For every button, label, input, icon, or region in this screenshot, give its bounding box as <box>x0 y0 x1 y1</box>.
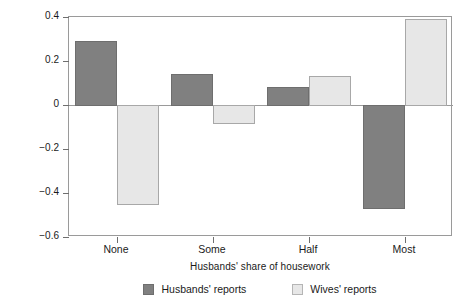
bar-most-wives <box>405 19 447 106</box>
x-axis-title: Husbands' share of housework <box>68 261 452 272</box>
y-axis-title: Marital happiness (standardized scores) <box>0 0 30 306</box>
x-tick-label: Half <box>263 243 353 255</box>
bar-none-husbands <box>75 41 117 106</box>
y-tick-label: 0 <box>13 99 59 109</box>
legend-swatch-icon-wives <box>292 284 303 295</box>
x-tick-label: Some <box>167 243 257 255</box>
legend-label-husbands: Husbands' reports <box>161 283 246 295</box>
chart-figure: Marital happiness (standardized scores) … <box>0 0 474 306</box>
y-tick-label: 0.2 <box>13 55 59 65</box>
bar-some-husbands <box>171 74 213 106</box>
bar-half-wives <box>309 76 351 106</box>
y-tick-mark <box>63 149 69 150</box>
y-tick-label: −0.4 <box>13 187 59 197</box>
y-tick-mark <box>63 237 69 238</box>
y-tick-label: 0.4 <box>13 11 59 21</box>
y-tick-mark <box>63 193 69 194</box>
legend-item-husbands: Husbands' reports <box>143 283 246 295</box>
x-tick-label: None <box>71 243 161 255</box>
bar-some-wives <box>213 105 255 124</box>
y-tick-label: −0.2 <box>13 143 59 153</box>
bar-half-husbands <box>267 87 309 106</box>
y-tick-label: −0.6 <box>13 231 59 241</box>
chart-legend: Husbands' reports Wives' reports <box>68 283 452 295</box>
bar-most-husbands <box>363 105 405 209</box>
legend-item-wives: Wives' reports <box>292 283 376 295</box>
plot-area <box>68 16 452 236</box>
y-tick-mark <box>63 17 69 18</box>
legend-swatch-icon-husbands <box>143 284 154 295</box>
x-tick-label: Most <box>359 243 449 255</box>
legend-label-wives: Wives' reports <box>310 283 376 295</box>
y-tick-mark <box>63 61 69 62</box>
bar-none-wives <box>117 105 159 205</box>
